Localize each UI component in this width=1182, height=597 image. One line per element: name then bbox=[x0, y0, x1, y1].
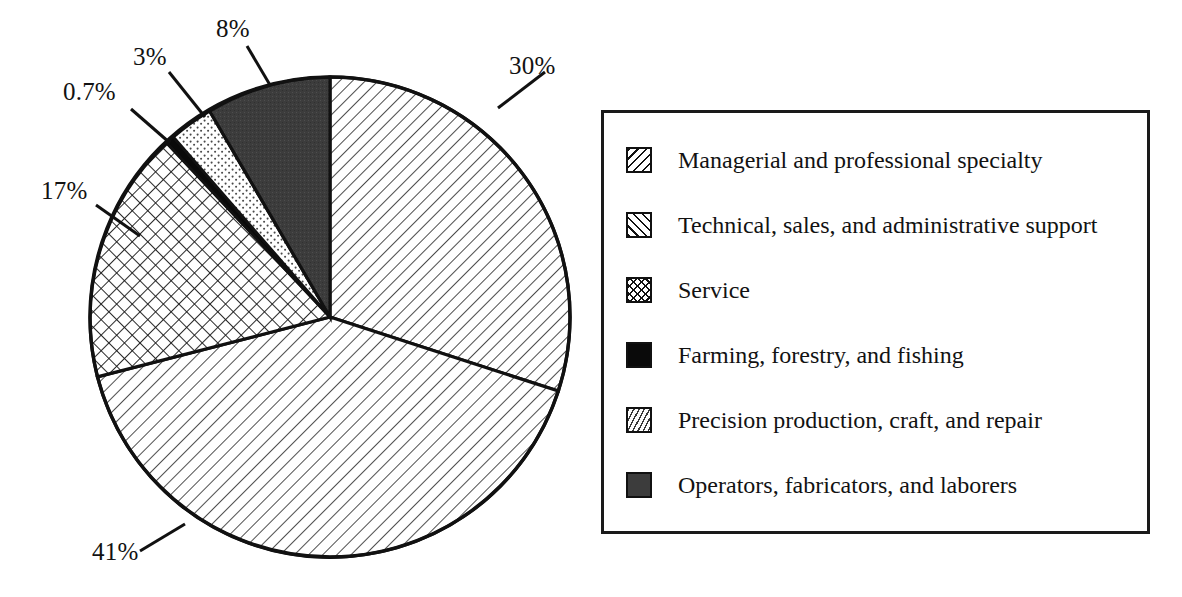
legend-item-precision-production[interactable]: Precision production, craft, and repair bbox=[604, 397, 1147, 443]
leader-line-41 bbox=[140, 524, 185, 551]
legend-label-service: Service bbox=[678, 278, 750, 302]
legend-swatch-diagonal-hatch-forwardslash-icon bbox=[626, 212, 652, 238]
pie-label-operators-8: 8% bbox=[216, 15, 250, 43]
legend-label-technical: Technical, sales, and administrative sup… bbox=[678, 213, 1098, 237]
legend-label-managerial: Managerial and professional specialty bbox=[678, 148, 1043, 172]
pie-chart-figure: 30% 41% 17% 0.7% 3% 8% Managerial and pr… bbox=[0, 0, 1182, 597]
legend-swatch-diagonal-hatch-backslash-icon bbox=[626, 147, 652, 173]
legend-label-farming: Farming, forestry, and fishing bbox=[678, 343, 964, 367]
legend-swatch-dotted-stipple-icon bbox=[626, 407, 652, 433]
legend-item-operators[interactable]: Operators, fabricators, and laborers bbox=[604, 462, 1147, 508]
legend-item-service[interactable]: Service bbox=[604, 267, 1147, 313]
legend-swatch-solid-black-icon bbox=[626, 342, 652, 368]
leader-line-3 bbox=[169, 72, 205, 117]
legend-list: Managerial and professional specialty Te… bbox=[604, 113, 1147, 531]
pie-label-farming-07: 0.7% bbox=[63, 78, 116, 106]
legend: Managerial and professional specialty Te… bbox=[601, 110, 1150, 534]
legend-item-managerial[interactable]: Managerial and professional specialty bbox=[604, 137, 1147, 183]
pie-label-precision-3: 3% bbox=[133, 43, 167, 71]
leader-line-8 bbox=[247, 46, 270, 85]
legend-label-operators: Operators, fabricators, and laborers bbox=[678, 473, 1017, 497]
legend-swatch-dark-gray-icon bbox=[626, 472, 652, 498]
legend-item-technical[interactable]: Technical, sales, and administrative sup… bbox=[604, 202, 1147, 248]
legend-label-precision-production: Precision production, craft, and repair bbox=[678, 408, 1042, 432]
pie-label-managerial-30: 30% bbox=[509, 52, 555, 80]
legend-item-farming[interactable]: Farming, forestry, and fishing bbox=[604, 332, 1147, 378]
pie-label-service-17: 17% bbox=[41, 177, 87, 205]
pie-label-technical-41: 41% bbox=[92, 538, 138, 566]
leader-line-07 bbox=[131, 109, 170, 143]
legend-swatch-crosshatch-icon bbox=[626, 277, 652, 303]
